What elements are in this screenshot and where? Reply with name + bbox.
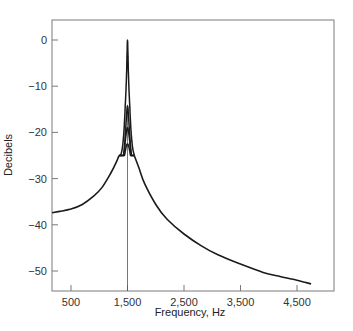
resonance-curve-1	[119, 40, 134, 156]
y-tick-label: 0	[41, 34, 47, 46]
y-axis-label: Decibels	[2, 133, 14, 176]
y-tick-label: −10	[28, 80, 47, 92]
plot-frame	[52, 20, 334, 291]
y-axis-ticks: 0−10−20−30−40−50	[28, 34, 58, 277]
y-tick-label: −30	[28, 173, 47, 185]
x-tick-label: 4,500	[283, 296, 311, 308]
x-tick-label: 3,500	[227, 296, 255, 308]
response-curves	[52, 40, 311, 284]
curve-left-tail	[52, 156, 119, 213]
y-tick-label: −40	[28, 219, 47, 231]
frequency-response-chart: 0−10−20−30−40−50 5001,5002,5003,5004,500…	[0, 0, 353, 331]
curve-right-tail	[134, 156, 311, 284]
x-axis-label: Frequency, Hz	[155, 306, 226, 318]
y-tick-label: −20	[28, 126, 47, 138]
x-axis-ticks: 5001,5002,5003,5004,500	[62, 285, 311, 308]
x-tick-label: 1,500	[114, 296, 142, 308]
x-tick-label: 500	[62, 296, 80, 308]
y-tick-label: −50	[28, 265, 47, 277]
